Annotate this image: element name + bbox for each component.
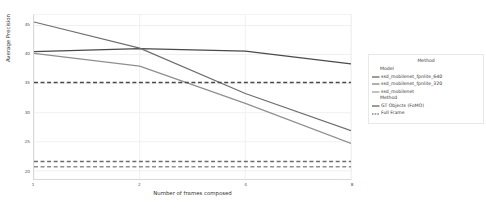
legend-item-label: ssd_mobilenet	[381, 90, 414, 95]
legend-title: Method	[372, 59, 480, 64]
legend-item-label: GT Objects (FoMO)	[381, 104, 424, 109]
legend-item[interactable]: GT Objects (FoMO)	[372, 103, 480, 109]
legend-group-heading: Method	[380, 96, 480, 101]
legend-group-heading: Model	[380, 67, 480, 72]
y-axis-title: Average Precision	[6, 0, 11, 62]
plot-area	[33, 14, 352, 180]
solid-line-icon	[372, 89, 380, 95]
x-axis-tick-label: 4	[244, 183, 247, 187]
y-axis-tick-label: 25	[22, 140, 30, 144]
series-line	[34, 22, 351, 131]
solid-line-icon	[372, 103, 380, 109]
x-axis-tick-label: 1	[32, 183, 35, 187]
legend-item[interactable]: Full Frame	[372, 111, 480, 117]
legend: Method Modelssd_mobilenet_fpnlite_640ssd…	[368, 54, 484, 124]
series-lines	[34, 15, 351, 179]
series-line	[34, 53, 351, 143]
legend-item-label: Full Frame	[381, 111, 405, 116]
legend-item-label: ssd_mobilenet_fpnlite_640	[381, 75, 442, 80]
series-line	[34, 49, 351, 64]
dashed-line-icon	[372, 111, 380, 117]
y-axis-tick-label: 20	[22, 170, 30, 174]
y-axis-tick-label: 45	[22, 22, 30, 26]
legend-item[interactable]: ssd_mobilenet	[372, 89, 480, 95]
x-axis-tick-label: 8	[351, 183, 354, 187]
x-axis-title: Number of frames composed	[33, 191, 352, 196]
solid-line-icon	[372, 81, 380, 87]
chart-figure: 454035302520 Average Precision 1248 Numb…	[0, 0, 486, 215]
y-axis-tick-label: 40	[22, 52, 30, 56]
y-axis-tick-label: 30	[22, 111, 30, 115]
solid-line-icon	[372, 74, 380, 80]
legend-item-label: ssd_mobilenet_fpnlite_320	[381, 82, 442, 87]
legend-body: Modelssd_mobilenet_fpnlite_640ssd_mobile…	[372, 67, 480, 117]
legend-item[interactable]: ssd_mobilenet_fpnlite_640	[372, 74, 480, 80]
legend-item[interactable]: ssd_mobilenet_fpnlite_320	[372, 81, 480, 87]
x-axis-tick-label: 2	[138, 183, 141, 187]
y-axis-tick-label: 35	[22, 81, 30, 85]
